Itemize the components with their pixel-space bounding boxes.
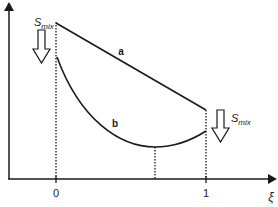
y-axis: [4, 2, 14, 179]
curve-b-label: b: [112, 118, 118, 129]
right-down-arrow-icon: [212, 110, 229, 142]
x-tick-1: 1: [203, 187, 209, 199]
mixing-entropy-diagram: 0 1 ξ a b Smix Smix: [0, 0, 278, 207]
x-axis-arrowhead-icon: [268, 174, 277, 184]
left-down-arrow-icon: [33, 30, 50, 63]
x-axis: [8, 174, 277, 184]
y-axis-arrowhead-icon: [4, 2, 14, 11]
right-smix-label: Smix: [231, 112, 252, 127]
curve-b: [57, 57, 206, 147]
left-smix-label: Smix: [34, 16, 55, 31]
curve-a-label: a: [118, 46, 124, 57]
x-axis-label: ξ: [268, 190, 274, 204]
curve-a: [56, 23, 206, 110]
x-tick-0: 0: [53, 187, 59, 199]
